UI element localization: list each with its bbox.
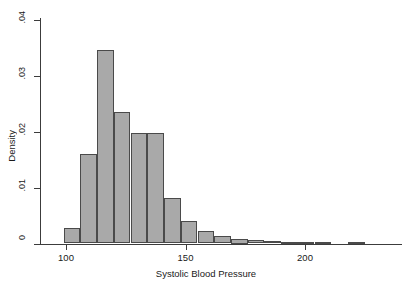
histogram-bar bbox=[164, 198, 181, 244]
x-axis-title: Systolic Blood Pressure bbox=[0, 268, 412, 279]
x-tick-mark bbox=[66, 245, 67, 250]
histogram-bar bbox=[181, 221, 198, 243]
histogram-bar bbox=[198, 231, 215, 244]
x-tick-mark bbox=[186, 245, 187, 250]
y-tick-mark bbox=[34, 244, 40, 245]
histogram-bar bbox=[97, 50, 114, 244]
y-tick-label: .01 bbox=[18, 179, 410, 192]
histogram-chart: 0.01.02.03.04 100150200250 Density Systo… bbox=[0, 0, 412, 292]
histogram-bar bbox=[131, 133, 148, 244]
histogram-bar bbox=[147, 133, 164, 244]
histogram-bar bbox=[231, 239, 248, 244]
histogram-bar bbox=[64, 228, 81, 244]
histogram-bar bbox=[214, 236, 231, 243]
y-tick-label: .02 bbox=[18, 123, 410, 136]
histogram-bar bbox=[281, 242, 298, 244]
histogram-bar bbox=[298, 242, 315, 244]
histogram-bar bbox=[114, 112, 131, 244]
y-tick-label: .03 bbox=[18, 67, 410, 80]
y-tick-label: .04 bbox=[18, 11, 410, 24]
histogram-bar bbox=[348, 242, 365, 244]
x-axis-title-text: Systolic Blood Pressure bbox=[156, 268, 256, 279]
y-axis-title: Density bbox=[4, 0, 18, 292]
histogram-bar bbox=[264, 241, 281, 243]
histogram-bar bbox=[248, 240, 265, 243]
y-axis-title-text: Density bbox=[6, 130, 17, 162]
x-tick-label: 150 bbox=[178, 252, 194, 263]
x-tick-label: 100 bbox=[58, 252, 74, 263]
x-tick-mark bbox=[305, 245, 306, 250]
histogram-bar bbox=[80, 154, 97, 243]
x-tick-label: 200 bbox=[297, 252, 313, 263]
histogram-bar bbox=[315, 242, 332, 244]
